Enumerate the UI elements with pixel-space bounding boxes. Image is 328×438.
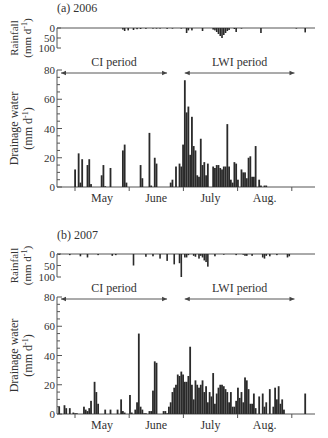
rainfall-bar bbox=[212, 28, 214, 30]
drainage-axis-label: Drainage water(mm d-1) bbox=[7, 92, 35, 166]
drainage-bar bbox=[264, 186, 266, 187]
drainage-bar bbox=[80, 183, 82, 187]
rainfall-bar bbox=[246, 254, 248, 256]
drainage-bar bbox=[269, 389, 271, 414]
drainage-bar bbox=[228, 167, 230, 187]
rainfall-tick-label: 100 bbox=[39, 42, 56, 54]
drainage-bar bbox=[182, 145, 184, 187]
drainage-bar bbox=[177, 375, 179, 414]
drainage-bar bbox=[187, 376, 189, 414]
svg-text:(mm d-1): (mm d-1) bbox=[20, 18, 34, 58]
rainfall-bar bbox=[219, 28, 221, 36]
rainfall-bar bbox=[152, 28, 154, 29]
drainage-bar bbox=[212, 167, 214, 187]
rainfall-bar bbox=[80, 254, 82, 256]
drainage-bar bbox=[193, 146, 195, 187]
drainage-bar bbox=[241, 392, 243, 414]
rainfall-bar bbox=[304, 28, 306, 32]
drainage-bar bbox=[88, 408, 90, 414]
drainage-bar bbox=[255, 146, 257, 187]
rainfall-bar bbox=[265, 254, 267, 256]
drainage-bar bbox=[258, 180, 260, 187]
month-label: May bbox=[91, 418, 113, 432]
drainage-tick-label: 0 bbox=[50, 408, 56, 420]
drainage-bar bbox=[210, 396, 212, 414]
drainage-bar bbox=[272, 407, 274, 414]
rainfall-bar bbox=[235, 28, 237, 32]
drainage-bar bbox=[143, 413, 145, 414]
drainage-bar bbox=[203, 392, 205, 414]
drainage-bar bbox=[253, 394, 255, 414]
drainage-bar bbox=[90, 401, 92, 414]
drainage-bar bbox=[196, 385, 198, 414]
drainage-bar bbox=[203, 162, 205, 187]
month-label: Aug. bbox=[253, 191, 277, 205]
drainage-bar bbox=[264, 407, 266, 414]
rainfall-bar bbox=[188, 254, 190, 255]
drainage-bar bbox=[205, 386, 207, 414]
drainage-bar bbox=[248, 389, 250, 414]
drainage-bar bbox=[249, 404, 251, 414]
drainage-bar bbox=[260, 186, 262, 187]
drainage-bar bbox=[122, 150, 124, 187]
drainage-bar bbox=[88, 159, 90, 187]
rainfall-bar bbox=[188, 28, 190, 30]
rainfall-bar bbox=[145, 254, 147, 257]
rainfall-subplot: 050100Rainfall(mm d-1) bbox=[8, 18, 315, 58]
drainage-bar bbox=[154, 361, 156, 414]
panel-label: (a) 2006 bbox=[57, 1, 97, 15]
drainage-bar bbox=[175, 385, 177, 414]
rainfall-bar bbox=[276, 254, 278, 255]
drainage-bar bbox=[212, 373, 214, 414]
drainage-subplot: 020406080MayJuneJulyAug.Drainage water(m… bbox=[7, 281, 315, 432]
drainage-bar bbox=[64, 405, 66, 414]
drainage-bar bbox=[219, 385, 221, 414]
period-label: CI period bbox=[91, 281, 137, 295]
drainage-bar bbox=[232, 407, 234, 414]
lwi-period-arrow: LWI period bbox=[185, 55, 295, 75]
drainage-bar bbox=[180, 372, 182, 414]
drainage-bar bbox=[101, 175, 103, 187]
drainage-bar bbox=[214, 404, 216, 414]
drainage-bar bbox=[223, 386, 225, 414]
drainage-bar bbox=[235, 164, 237, 187]
rainfall-bar bbox=[133, 28, 135, 30]
rainfall-bar bbox=[97, 254, 99, 255]
drainage-bar bbox=[72, 413, 74, 414]
panel-2006: (a) 2006050100Rainfall(mm d-1)020406080M… bbox=[7, 1, 315, 205]
drainage-tick-label: 0 bbox=[50, 181, 56, 193]
drainage-bar bbox=[69, 408, 71, 414]
drainage-bar bbox=[249, 156, 251, 187]
drainage-bar bbox=[242, 402, 244, 414]
rainfall-bar bbox=[198, 254, 200, 259]
drainage-tick-label: 60 bbox=[44, 93, 56, 105]
rainfall-bar bbox=[156, 28, 158, 29]
drainage-bar bbox=[110, 410, 112, 414]
drainage-bar bbox=[278, 386, 280, 414]
rainfall-bar bbox=[159, 28, 161, 29]
drainage-bar bbox=[164, 411, 166, 414]
rainfall-bar bbox=[136, 28, 138, 29]
drainage-bar bbox=[141, 178, 143, 187]
rainfall-bar bbox=[58, 254, 60, 255]
drainage-bar bbox=[104, 186, 106, 187]
rainfall-bar bbox=[87, 254, 89, 257]
drainage-bar bbox=[81, 159, 83, 187]
drainage-bar bbox=[140, 165, 142, 187]
drainage-bar bbox=[170, 183, 172, 187]
drainage-bar bbox=[97, 404, 99, 414]
rainfall-bar bbox=[152, 254, 154, 256]
drainage-bar bbox=[104, 410, 106, 414]
drainage-bar bbox=[134, 410, 136, 414]
drainage-bar bbox=[154, 158, 156, 187]
drainage-bar bbox=[138, 334, 140, 414]
drainage-bar bbox=[207, 402, 209, 414]
svg-text:Drainage water: Drainage water bbox=[7, 319, 21, 393]
rainfall-axis-label: Rainfall(mm d-1) bbox=[8, 245, 34, 285]
drainage-bar bbox=[175, 167, 177, 187]
rainfall-bar bbox=[262, 254, 264, 257]
drainage-bar bbox=[150, 411, 152, 414]
drainage-bar bbox=[182, 375, 184, 414]
drainage-bar bbox=[156, 164, 158, 187]
drainage-bar bbox=[90, 184, 92, 187]
